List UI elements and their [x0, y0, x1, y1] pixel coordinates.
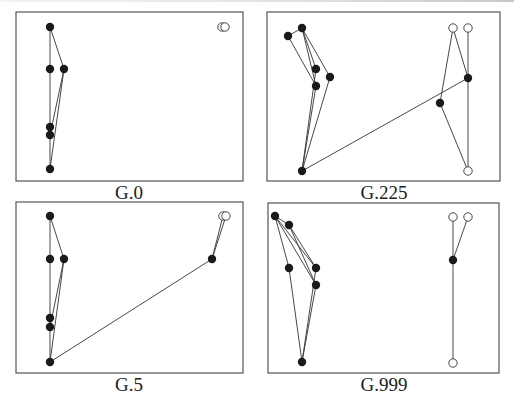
open-node-icon	[449, 213, 457, 221]
open-node-icon	[222, 212, 230, 220]
open-node-icon	[464, 213, 472, 221]
open-node-icon	[464, 167, 472, 175]
filled-node-icon	[271, 212, 279, 220]
graph-edge	[212, 216, 226, 259]
filled-node-icon	[298, 24, 306, 32]
graph-edge	[50, 27, 64, 69]
filled-node-icon	[46, 131, 54, 139]
panel-g999	[268, 203, 499, 373]
filled-node-icon	[46, 23, 54, 31]
panel-g5	[16, 202, 243, 373]
graph-edge	[50, 259, 212, 362]
filled-node-icon	[326, 73, 334, 81]
graph-panels-canvas	[0, 0, 514, 408]
filled-node-icon	[46, 212, 54, 220]
graph-edge	[289, 225, 316, 285]
graph-edge	[302, 28, 316, 86]
filled-node-icon	[312, 82, 320, 90]
graph-edge	[50, 216, 64, 259]
panel-g225	[267, 12, 500, 181]
open-node-icon	[449, 359, 457, 367]
graph-edge	[453, 217, 468, 260]
graph-edge	[302, 285, 316, 362]
panel-label-g0: G.0	[69, 182, 189, 204]
filled-node-icon	[46, 314, 54, 322]
filled-node-icon	[436, 99, 444, 107]
filled-node-icon	[46, 255, 54, 263]
graph-edge	[50, 69, 64, 169]
panel-frame	[267, 12, 500, 181]
filled-node-icon	[208, 255, 216, 263]
open-node-icon	[464, 24, 472, 32]
filled-node-icon	[464, 74, 472, 82]
filled-node-icon	[298, 358, 306, 366]
graph-edge	[302, 78, 468, 171]
open-node-icon	[221, 23, 229, 31]
filled-node-icon	[46, 123, 54, 131]
filled-node-icon	[46, 65, 54, 73]
graph-edge	[302, 77, 330, 171]
graph-edge	[275, 216, 316, 285]
filled-node-icon	[60, 255, 68, 263]
filled-node-icon	[285, 221, 293, 229]
panel-label-g999: G.999	[324, 374, 444, 396]
panel-g0	[16, 12, 243, 181]
graph-edge	[440, 103, 468, 171]
graph-edge	[440, 28, 453, 103]
filled-node-icon	[312, 264, 320, 272]
panel-label-g5: G.5	[69, 374, 189, 396]
filled-node-icon	[285, 264, 293, 272]
open-node-icon	[449, 24, 457, 32]
filled-node-icon	[60, 65, 68, 73]
panel-label-g225: G.225	[324, 182, 444, 204]
filled-node-icon	[312, 65, 320, 73]
filled-node-icon	[312, 281, 320, 289]
graph-edge	[288, 36, 316, 86]
graph-edge	[50, 259, 64, 362]
filled-node-icon	[284, 32, 292, 40]
filled-node-icon	[46, 323, 54, 331]
filled-node-icon	[46, 165, 54, 173]
graph-edge	[289, 268, 302, 362]
filled-node-icon	[46, 358, 54, 366]
filled-node-icon	[298, 167, 306, 175]
graph-edge	[302, 86, 316, 171]
graph-edge	[453, 28, 468, 78]
filled-node-icon	[449, 256, 457, 264]
graph-edge	[275, 216, 316, 268]
